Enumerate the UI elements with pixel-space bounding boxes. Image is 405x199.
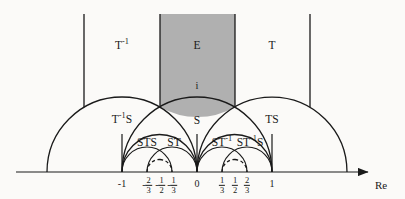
region-label-STS: STS	[137, 137, 157, 149]
tick-label-zero: 0	[195, 179, 200, 189]
region-label-S: S	[194, 115, 200, 127]
region-exponent-ST-inverse: -1	[225, 134, 232, 143]
fraction-two-thirds-negative: 23	[146, 176, 152, 194]
fraction-one-third: 13	[219, 176, 225, 194]
region-exponent-T-inverse-S: -1	[119, 111, 126, 120]
region-label-E: E	[193, 40, 200, 52]
region-suffix-ST-inverse-S: S	[257, 136, 263, 148]
region-suffix-T-inverse-S: S	[126, 113, 132, 125]
region-label-ST-inverse-S: ST-1S	[237, 137, 264, 149]
point-label-i: i	[196, 81, 199, 92]
tick-label-neg-one-half: -12	[155, 176, 165, 194]
fraction-one-half-negative: 12	[159, 176, 165, 194]
fraction-one-half: 12	[232, 176, 238, 194]
region-label-ST-inverse: ST-1	[212, 137, 232, 149]
region-label-T-inverse-S: T-1S	[112, 114, 132, 126]
region-exponent-T-inverse: -1	[122, 37, 129, 46]
arc-half-at-neg-one-half	[122, 135, 197, 173]
tick-label-neg-two-thirds: -23	[142, 176, 152, 194]
tick-label-pos-1: 1	[270, 179, 275, 189]
region-label-T-inverse: T-1	[115, 40, 129, 52]
region-label-T: T	[268, 40, 275, 52]
tick-label-neg-one-third: -13	[167, 176, 177, 194]
tick-label-pos-two-thirds: 23	[244, 176, 250, 194]
tick-label-neg-1: -1	[118, 179, 126, 189]
fraction-one-third-negative: 13	[171, 176, 177, 194]
axis-label-re: Re	[375, 180, 387, 191]
region-label-TS: TS	[265, 114, 278, 126]
figure-canvas	[0, 0, 405, 199]
modular-group-tessellation-figure: T-1 E T T-1S S TS STS ST ST-1 ST-1S i -1…	[0, 0, 405, 199]
tick-label-pos-one-half: 12	[232, 176, 238, 194]
tick-label-pos-one-third: 13	[219, 176, 225, 194]
region-label-ST: ST	[167, 137, 180, 149]
fraction-two-thirds: 23	[244, 176, 250, 194]
